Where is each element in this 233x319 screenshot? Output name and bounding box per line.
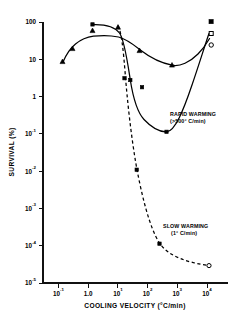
x-tick-labels-group: 10-1 1.0 101 102 103 104 [53, 287, 212, 297]
x-tick-label-1e1: 101 [113, 287, 123, 297]
x-ticks-group [59, 283, 208, 288]
y-tick-label-1e-4: 10-4 [25, 239, 36, 249]
slow-warming-annotation-line1: SLOW WARMING [163, 223, 208, 229]
survival-vs-cooling-velocity-chart: 100 10 1 10-1 10-2 10-3 10-4 10-5 10-1 1… [0, 0, 233, 319]
data-point-marker [91, 23, 94, 26]
rapid-warming-annotation-line2: (>500° C/min) [170, 118, 206, 124]
rapid-warming-annotation-line1: RAPID WARMING [170, 111, 216, 117]
rapid-warming-annotation: RAPID WARMING (>500° C/min) [170, 111, 216, 124]
x-tick-label-1e4: 104 [202, 287, 212, 297]
rapid-warming-square-markers [91, 23, 168, 134]
x-tick-label-1e-1: 10-1 [53, 287, 64, 297]
terminal-marker-open-circle [209, 43, 213, 47]
y-tick-labels-group: 100 10 1 10-1 10-2 10-3 10-4 10-5 [25, 18, 36, 286]
data-point-marker [207, 264, 211, 268]
terminal-markers-group [209, 20, 213, 48]
data-point-marker [135, 168, 138, 171]
y-tick-label-1: 1 [32, 93, 36, 100]
rapid-warming-triangle-curve [63, 36, 210, 66]
x-tick-label-1e3: 103 [173, 287, 183, 297]
slow-warming-annotation-line2: (1° C/min) [171, 230, 197, 236]
terminal-marker-open-square [209, 32, 213, 36]
x-tick-label-1: 1.0 [84, 290, 93, 297]
terminal-marker-filled-square [209, 20, 213, 24]
y-axis-title: SURVIVAL (%) [8, 128, 16, 177]
data-point-marker [123, 77, 126, 80]
slow-warming-annotation: SLOW WARMING (1° C/min) [163, 223, 208, 236]
data-point-marker [158, 242, 161, 245]
x-tick-label-1e2: 102 [143, 287, 153, 297]
y-tick-label-1e-1: 10-1 [25, 127, 36, 137]
x-axis-title: COOLING VELOCITY (°C/min) [84, 302, 185, 310]
y-tick-label-10: 10 [29, 56, 37, 63]
data-point-marker [129, 78, 132, 81]
data-point-marker [90, 28, 95, 33]
y-tick-label-1e-2: 10-2 [25, 165, 36, 175]
y-ticks-group [39, 22, 44, 283]
data-point-marker [140, 86, 143, 89]
y-tick-label-1e-5: 10-5 [25, 277, 36, 287]
y-tick-label-1e-3: 10-3 [25, 202, 36, 212]
chart-canvas: 100 10 1 10-1 10-2 10-3 10-4 10-5 10-1 1… [0, 0, 233, 319]
data-point-marker [165, 130, 168, 133]
y-tick-label-100: 100 [25, 18, 36, 25]
data-point-marker [116, 25, 121, 30]
